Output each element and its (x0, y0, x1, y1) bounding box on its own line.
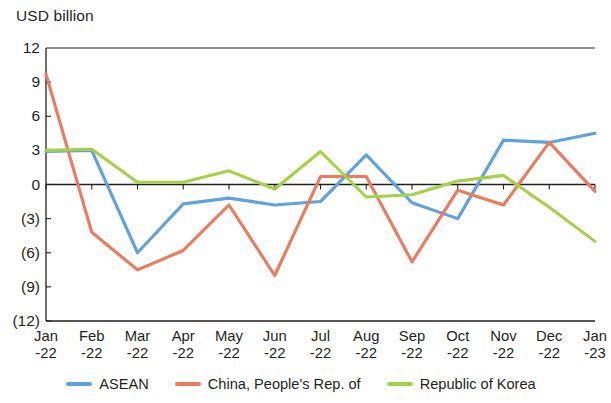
x-tick-month: Nov (480, 328, 528, 345)
x-tick-year: -22 (525, 345, 573, 362)
legend-item-label: China, People's Rep. of (208, 376, 361, 392)
x-tick-label: May-22 (205, 328, 253, 361)
x-tick-month: Oct (434, 328, 482, 345)
x-tick-label: Apr-22 (159, 328, 207, 361)
x-tick-year: -22 (22, 345, 70, 362)
x-tick-year: -22 (251, 345, 299, 362)
x-tick-label: Oct-22 (434, 328, 482, 361)
x-tick-month: Sep (388, 328, 436, 345)
x-tick-month: Mar (114, 328, 162, 345)
x-tick-label: Feb-22 (68, 328, 116, 361)
legend-swatch-icon (66, 382, 92, 385)
x-tick-year: -22 (205, 345, 253, 362)
legend-swatch-icon (175, 382, 201, 385)
legend-item-label: ASEAN (99, 376, 148, 392)
x-tick-year: -22 (114, 345, 162, 362)
x-tick-label: Jul-22 (297, 328, 345, 361)
x-tick-year: -22 (388, 345, 436, 362)
x-tick-month: May (205, 328, 253, 345)
x-tick-year: -22 (297, 345, 345, 362)
x-tick-year: -22 (68, 345, 116, 362)
y-tick-label: (9) (0, 279, 40, 295)
x-tick-month: Jan (571, 328, 611, 345)
y-tick-label: 6 (0, 108, 40, 124)
x-tick-month: Feb (68, 328, 116, 345)
x-tick-month: Aug (342, 328, 390, 345)
series-line-republic-of-korea (46, 149, 595, 241)
x-tick-month: Apr (159, 328, 207, 345)
x-tick-month: Jan (22, 328, 70, 345)
x-tick-label: Jan-23 (571, 328, 611, 361)
x-tick-label: Dec-22 (525, 328, 573, 361)
x-tick-year: -22 (159, 345, 207, 362)
y-tick-label: (6) (0, 245, 40, 261)
x-tick-month: Dec (525, 328, 573, 345)
x-tick-label: Nov-22 (480, 328, 528, 361)
legend-item-label: Republic of Korea (420, 376, 536, 392)
x-tick-year: -22 (480, 345, 528, 362)
legend-item[interactable]: ASEAN (66, 376, 148, 392)
y-tick-label: 12 (0, 40, 40, 56)
legend-item[interactable]: Republic of Korea (387, 376, 536, 392)
x-tick-year: -22 (342, 345, 390, 362)
axis-layer (46, 48, 595, 321)
y-tick-label: (12) (0, 313, 40, 329)
y-tick-label: (3) (0, 211, 40, 227)
x-tick-year: -22 (434, 345, 482, 362)
legend-item[interactable]: China, People's Rep. of (175, 376, 361, 392)
x-tick-label: Jan-22 (22, 328, 70, 361)
x-tick-month: Jul (297, 328, 345, 345)
x-tick-label: Jun-22 (251, 328, 299, 361)
series-layer (46, 74, 595, 275)
legend-swatch-icon (387, 382, 413, 385)
y-tick-label: 9 (0, 74, 40, 90)
chart-legend: ASEANChina, People's Rep. ofRepublic of … (0, 376, 602, 392)
y-tick-label: 3 (0, 142, 40, 158)
x-tick-month: Jun (251, 328, 299, 345)
x-tick-year: -23 (571, 345, 611, 362)
x-tick-label: Mar-22 (114, 328, 162, 361)
y-tick-label: 0 (0, 177, 40, 193)
x-tick-label: Aug-22 (342, 328, 390, 361)
x-tick-label: Sep-22 (388, 328, 436, 361)
